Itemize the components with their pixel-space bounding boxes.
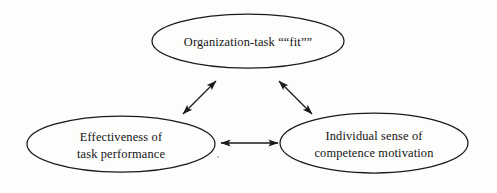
node-effectiveness-of-task-performance[interactable]: Effectiveness of task performance bbox=[27, 116, 215, 172]
node-org-task-fit-label-line-1: Organization-task ““fit”” bbox=[184, 35, 312, 49]
node-effectiveness-label-line-1: Effectiveness of bbox=[80, 130, 163, 144]
diagram-canvas: Organization-task ““fit”” Effectiveness … bbox=[0, 0, 497, 193]
node-org-task-fit[interactable]: Organization-task ““fit”” bbox=[152, 14, 344, 68]
node-individual-sense-label-line-2: competence motivation bbox=[314, 146, 433, 160]
edge-effectiveness-to-fit bbox=[183, 81, 216, 114]
node-individual-sense-label-line-1: Individual sense of bbox=[325, 129, 423, 143]
edge-fit-to-individual bbox=[279, 81, 312, 114]
node-effectiveness-ellipse bbox=[27, 116, 215, 172]
diagram-svg: Organization-task ““fit”” Effectiveness … bbox=[0, 0, 497, 193]
node-effectiveness-label-line-2: task performance bbox=[77, 147, 165, 161]
scan-speck-artifact bbox=[217, 156, 219, 158]
node-individual-sense-of-competence-motivation[interactable]: Individual sense of competence motivatio… bbox=[280, 113, 468, 173]
node-individual-sense-ellipse bbox=[280, 113, 468, 173]
